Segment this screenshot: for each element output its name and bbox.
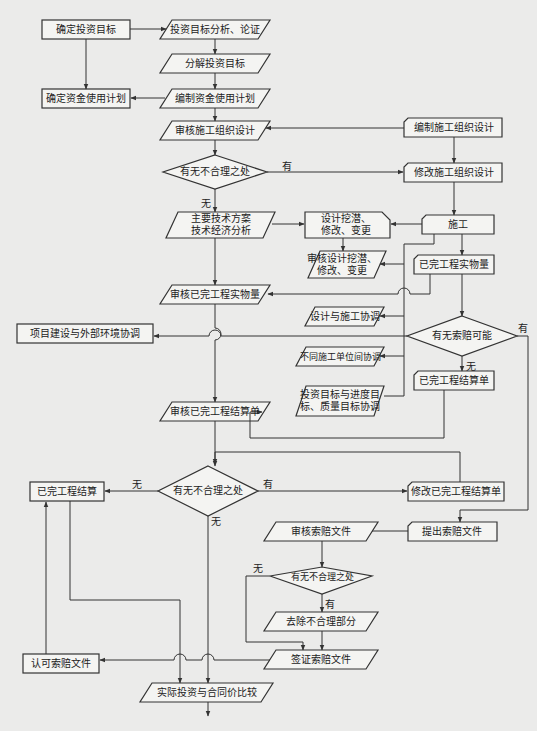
label-n25: 修改已完工程结算单 [411,486,501,498]
label-n23: 已完工程结算 [37,486,97,498]
edge-label-no-4: 无 [211,513,221,528]
label-n13: 审核设计挖潜、 修改、变更 [307,253,377,277]
label-n24: 有无不合理之处 [173,485,243,497]
label-n7: 编制施工组织设计 [414,122,494,134]
label-n16: 设计与施工协调 [310,311,380,323]
label-n31: 签证索赔文件 [291,654,351,666]
label-n11: 设计挖潜、 修改、变更 [321,213,371,237]
label-n10: 主要技术方案 技术经济分析 [191,213,251,237]
edge-label-yes-2: 有 [518,320,528,335]
label-n6: 审核施工组织设计 [175,125,255,137]
label-n15: 审核已完工程实物量 [170,289,260,301]
edge-label-no-2: 无 [466,358,476,373]
label-n2: 投资目标分析、论证 [170,24,260,36]
edge-label-no-3: 无 [132,476,142,491]
label-n4: 确定资金使用计划 [46,93,126,105]
label-n28: 有无不合理之处 [291,571,354,583]
label-n5: 编制资金使用计划 [175,93,255,105]
label-n3: 分解投资目标 [185,58,245,70]
label-n20: 已完工程结算单 [419,375,489,387]
label-n18: 有无索赔可能 [432,330,492,342]
label-n27: 提出索赔文件 [422,526,482,538]
label-n21: 投资目标与进度目 标、质量目标协调 [300,389,380,413]
label-n1: 确定投资目标 [56,24,116,36]
label-n12: 施工 [448,219,468,231]
edge-label-yes-4: 有 [325,596,335,611]
label-n29: 去除不合理部分 [286,616,356,628]
label-n17: 项目建设与外部环境协调 [30,328,140,340]
edge-label-yes-3: 有 [263,476,273,491]
label-n19: 不同施工单位间协调 [300,351,381,363]
label-n26: 审核索赔文件 [291,526,351,538]
label-n30: 认可索赔文件 [31,658,91,670]
flowchart-canvas [0,0,537,731]
edge-label-yes-1: 有 [282,158,292,173]
label-n32: 实际投资与合同价比较 [157,687,257,699]
edge-label-no-1: 无 [201,195,211,210]
edge-label-no-5: 无 [253,560,263,575]
label-n9: 修改施工组织设计 [414,167,494,179]
label-n22: 审核已完工程结算单 [170,406,260,418]
label-n14: 已完工程实物量 [419,259,489,271]
label-n8: 有无不合理之处 [180,166,250,178]
